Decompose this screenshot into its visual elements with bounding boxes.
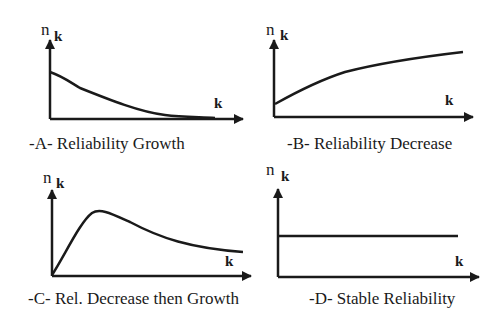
trend-curve — [50, 72, 215, 118]
y-axis-subscript: k — [280, 27, 289, 43]
x-axis-label: k — [455, 253, 464, 269]
panel-caption: -D- Stable Reliability — [309, 289, 456, 308]
panel-caption: -A- Reliability Growth — [29, 134, 185, 153]
panel-caption: -C- Rel. Decrease then Growth — [28, 289, 240, 308]
trend-curve — [275, 52, 463, 104]
x-axis-label: k — [214, 95, 223, 111]
y-axis-subscript: k — [54, 28, 63, 44]
y-axis-subscript: k — [56, 175, 65, 191]
panel-c: n k k -C- Rel. Decrease then Growth — [28, 168, 251, 308]
y-axis-label: n — [266, 160, 275, 179]
panel-d: n k k -D- Stable Reliability — [266, 160, 479, 308]
y-axis-label: n — [41, 20, 50, 39]
trend-curve — [52, 211, 243, 275]
panel-a: n k k -A- Reliability Growth — [29, 20, 243, 153]
y-axis-label: n — [266, 20, 275, 39]
x-axis-label: k — [225, 253, 234, 269]
panel-caption: -B- Reliability Decrease — [287, 134, 452, 153]
reliability-trends-figure: n k k -A- Reliability Growth n k k -B- R… — [0, 0, 502, 324]
y-axis-label: n — [43, 168, 52, 187]
panel-b: n k k -B- Reliability Decrease — [266, 20, 473, 153]
y-axis-subscript: k — [281, 168, 290, 184]
x-axis-label: k — [445, 92, 454, 108]
